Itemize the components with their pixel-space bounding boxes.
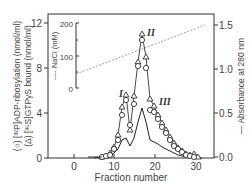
right-tick-0.5: 0.5: [219, 108, 233, 119]
svg-text:200: 200: [60, 20, 74, 29]
x-tick-30: 30: [190, 161, 202, 172]
peak-label-II: II: [146, 27, 156, 38]
x-axis-label: Fraction number: [95, 172, 168, 183]
left-axis-label-1: (○) [³²P]ADP-ribosylation (nmol/ml): [12, 21, 22, 151]
right-y-axis: [214, 25, 218, 157]
right-tick-0.0: 0.0: [219, 152, 233, 163]
chart: 0 4 8 12 0.0 0.5 1.0 1.5 0 10 20 30 Frac…: [0, 0, 249, 183]
peak-label-III: III: [158, 96, 172, 107]
svg-text:100: 100: [60, 53, 74, 62]
right-tick-1.0: 1.0: [219, 64, 233, 75]
left-axis-label-2: (Δ) [³⁵S]GTPγS bound (nmol/ml): [23, 25, 33, 147]
inset-axis: 200 100 0 ---- NaCl (mM): [50, 20, 79, 94]
x-tick-20: 20: [149, 161, 161, 172]
svg-text:---- NaCl (mM): ---- NaCl (mM): [50, 31, 59, 80]
left-tick-0: 0: [36, 153, 42, 164]
right-axis-label: — Absorbance at 280 nm: [236, 38, 246, 134]
left-tick-4: 4: [36, 108, 42, 119]
left-y-axis: [44, 23, 48, 158]
left-tick-8: 8: [36, 63, 42, 74]
x-tick-0: 0: [71, 161, 77, 172]
x-tick-10: 10: [108, 161, 120, 172]
svg-text:0: 0: [69, 85, 74, 94]
right-tick-1.5: 1.5: [219, 20, 233, 31]
